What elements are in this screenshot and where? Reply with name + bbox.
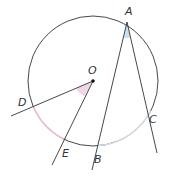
center-point-o (91, 79, 95, 83)
label-d: D (18, 96, 26, 109)
line-oe (52, 81, 93, 165)
label-e: E (62, 147, 69, 160)
label-c: C (149, 113, 157, 126)
label-o: O (88, 64, 97, 77)
line-ab (92, 22, 127, 170)
label-a: A (124, 5, 133, 18)
label-b: B (94, 153, 102, 166)
geometry-diagram: A O D E B C (0, 0, 171, 176)
arc-bc (98, 111, 151, 146)
angle-o-fill (76, 81, 93, 96)
arc-de (33, 107, 63, 139)
